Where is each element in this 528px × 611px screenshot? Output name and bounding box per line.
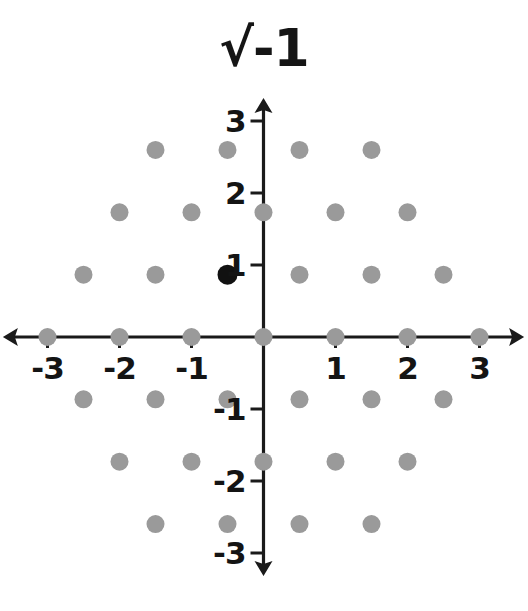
lattice-point [291,266,309,284]
lattice-point [111,203,129,221]
lattice-point [147,141,165,159]
lattice-point [111,328,129,346]
lattice-point [363,266,381,284]
y-axis-tick-label: 3 [225,106,246,137]
lattice-point [75,266,93,284]
lattice-point [75,390,93,408]
lattice-point [363,141,381,159]
y-axis-tick-label: -1 [213,394,245,425]
y-axis-tick-label: 2 [225,178,246,209]
y-axis-tick-label: -3 [213,538,245,569]
lattice-point [363,515,381,533]
lattice-point [291,141,309,159]
lattice-point [435,266,453,284]
lattice-point [327,328,345,346]
lattice-point [471,328,489,346]
x-axis-tick-label: 1 [325,353,346,384]
lattice-point [399,203,417,221]
lattice-point [183,328,201,346]
lattice-point [219,141,237,159]
lattice-point [399,453,417,471]
x-axis-tick-label: -3 [31,353,63,384]
lattice-point [147,515,165,533]
lattice-point [183,203,201,221]
screenshot-root: √-1 -3-2-1123-3-2-1123 [0,0,528,611]
lattice-point [255,203,273,221]
lattice-point [399,328,417,346]
scatter-plot: -3-2-1123-3-2-1123 [0,0,528,611]
lattice-point [147,266,165,284]
lattice-point [255,453,273,471]
lattice-point [327,203,345,221]
y-axis-tick-label: 1 [225,250,246,281]
lattice-point [327,453,345,471]
lattice-point [39,328,57,346]
plot-canvas [0,0,528,611]
lattice-point [219,515,237,533]
lattice-point [291,515,309,533]
lattice-point [183,453,201,471]
lattice-point [291,390,309,408]
lattice-point [147,390,165,408]
x-axis-tick-label: -1 [175,353,207,384]
lattice-point [435,390,453,408]
x-axis-tick-label: 2 [397,353,418,384]
lattice-point [363,390,381,408]
lattice-point [255,328,273,346]
lattice-point [111,453,129,471]
x-axis-tick-label: 3 [469,353,490,384]
x-axis-tick-label: -2 [103,353,135,384]
y-axis-tick-label: -2 [213,466,245,497]
